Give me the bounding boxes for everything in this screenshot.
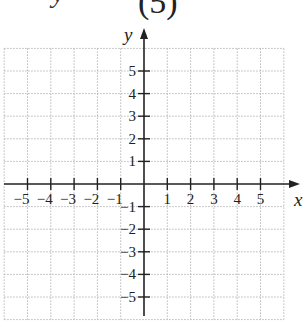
x-tick-label: −4: [37, 191, 53, 207]
coordinate-plane: xy −5−4−3−2−112345−5−4−3−2−112345: [0, 0, 306, 324]
y-tick-label: 1: [129, 153, 137, 169]
y-tick-label: 2: [129, 131, 137, 147]
y-axis-arrow-icon: [140, 28, 148, 39]
x-tick-label: 2: [187, 191, 195, 207]
y-tick-label: −1: [120, 199, 136, 215]
x-tick-label: −2: [83, 191, 99, 207]
y-tick-label: −3: [120, 244, 136, 260]
x-tick-label: 1: [164, 191, 172, 207]
x-tick-label: 4: [233, 191, 241, 207]
x-tick-label: −5: [14, 191, 30, 207]
x-axis-label: x: [293, 189, 303, 210]
y-tick-label: 3: [129, 108, 137, 124]
y-tick-label: −5: [120, 289, 136, 305]
y-tick-label: −2: [120, 221, 136, 237]
x-axis-arrow-icon: [289, 180, 300, 188]
y-tick-label: 4: [129, 86, 137, 102]
y-tick-label: 5: [129, 63, 137, 79]
x-tick-label: 5: [257, 191, 265, 207]
x-tick-label: −3: [60, 191, 76, 207]
y-tick-label: −4: [120, 266, 136, 282]
axes: xy: [4, 24, 303, 316]
x-tick-label: 3: [210, 191, 218, 207]
y-axis-label: y: [122, 24, 133, 45]
